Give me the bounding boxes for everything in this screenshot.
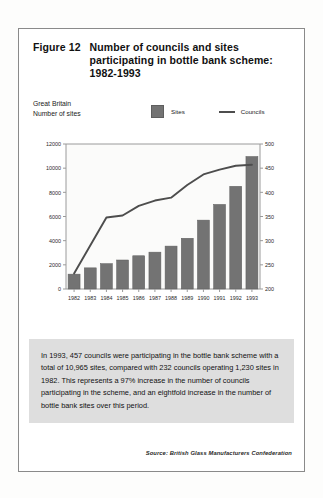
svg-text:250: 250 bbox=[265, 262, 274, 268]
svg-text:1990: 1990 bbox=[197, 295, 209, 301]
svg-text:12000: 12000 bbox=[46, 141, 61, 147]
figure-title-block: Figure 12 Number of councils and sites p… bbox=[33, 41, 295, 81]
line-swatch-icon bbox=[219, 111, 235, 113]
svg-text:200: 200 bbox=[265, 286, 274, 292]
svg-text:1992: 1992 bbox=[230, 295, 242, 301]
caption-box: In 1993, 457 councils were participating… bbox=[29, 339, 294, 423]
svg-text:1987: 1987 bbox=[149, 295, 161, 301]
svg-text:1984: 1984 bbox=[100, 295, 112, 301]
bar-swatch-icon bbox=[151, 105, 164, 118]
svg-text:10000: 10000 bbox=[46, 165, 61, 171]
figure-title-line-2: participating in bottle bank scheme: bbox=[90, 54, 273, 67]
svg-text:1986: 1986 bbox=[133, 295, 145, 301]
chart-area: 0200040006000800010000120002002503003504… bbox=[29, 137, 297, 333]
figure-title-line-3: 1982-1993 bbox=[90, 67, 273, 80]
svg-text:300: 300 bbox=[265, 238, 274, 244]
svg-text:1993: 1993 bbox=[246, 295, 258, 301]
svg-text:6000: 6000 bbox=[49, 214, 61, 220]
legend-item-sites: Sites bbox=[151, 105, 185, 118]
figure-label: Figure 12 bbox=[33, 41, 81, 53]
svg-text:1985: 1985 bbox=[117, 295, 129, 301]
svg-text:1991: 1991 bbox=[214, 295, 226, 301]
chart-subheader: Great Britain Number of sites bbox=[33, 99, 81, 119]
svg-text:1989: 1989 bbox=[181, 295, 193, 301]
svg-text:400: 400 bbox=[265, 190, 274, 196]
figure-title: Number of councils and sites participati… bbox=[90, 41, 273, 81]
figure-page: Figure 12 Number of councils and sites p… bbox=[0, 0, 323, 498]
svg-text:2000: 2000 bbox=[49, 262, 61, 268]
legend-item-councils: Councils bbox=[219, 108, 265, 115]
svg-text:4000: 4000 bbox=[49, 238, 61, 244]
region-label: Great Britain bbox=[33, 99, 81, 109]
chart-legend: Sites Councils bbox=[151, 105, 265, 118]
figure-title-line-1: Number of councils and sites bbox=[90, 41, 273, 54]
caption-text: In 1993, 457 councils were participating… bbox=[41, 350, 282, 412]
svg-text:1982: 1982 bbox=[68, 295, 80, 301]
legend-label-sites: Sites bbox=[171, 108, 185, 115]
legend-label-councils: Councils bbox=[241, 108, 265, 115]
svg-text:0: 0 bbox=[58, 286, 61, 292]
bottle-bank-chart: 0200040006000800010000120002002503003504… bbox=[29, 137, 297, 333]
svg-text:1988: 1988 bbox=[165, 295, 177, 301]
svg-text:450: 450 bbox=[265, 165, 274, 171]
svg-text:1983: 1983 bbox=[84, 295, 96, 301]
unit-label: Number of sites bbox=[33, 109, 81, 119]
svg-text:8000: 8000 bbox=[49, 190, 61, 196]
source-note: Source: British Glass Manufacturers Conf… bbox=[146, 450, 292, 456]
figure-frame: Figure 12 Number of councils and sites p… bbox=[18, 28, 305, 472]
svg-text:350: 350 bbox=[265, 214, 274, 220]
svg-text:500: 500 bbox=[265, 141, 274, 147]
